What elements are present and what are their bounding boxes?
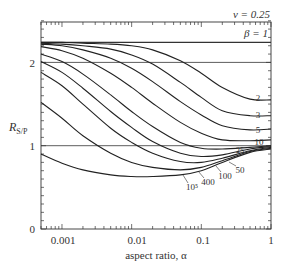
x-tick-0.001: 0.001	[51, 234, 76, 246]
curve-label-25: 25	[236, 146, 244, 155]
curve-label-50: 50	[236, 165, 246, 175]
x-tick-0.01: 0.01	[127, 234, 146, 246]
nu-annotation: ν = 0.25	[233, 8, 271, 20]
curve-label-2: 2	[256, 93, 261, 103]
beta-annotation: β = 1	[243, 27, 268, 39]
curve-25	[41, 54, 271, 149]
plot-frame	[41, 22, 271, 229]
curve-2	[41, 42, 271, 100]
y-tick-1: 1	[30, 140, 36, 152]
curve-5	[41, 44, 271, 130]
curve-10	[41, 47, 271, 141]
curve-label-400: 400	[201, 177, 215, 187]
chart: ν = 0.25 β = 1 RS/P 0 1 2 0.001 0.01 0.1…	[0, 0, 283, 263]
curve-label-3: 3	[256, 110, 261, 120]
curve-label-10: 10	[255, 137, 265, 147]
curve-label-100: 100	[218, 171, 232, 181]
x-axis-label: aspect ratio, α	[125, 249, 187, 261]
x-tick-0.1: 0.1	[196, 234, 210, 246]
curve-label-5: 5	[256, 125, 261, 135]
x-tick-1: 1	[268, 234, 274, 246]
y-axis-label: RS/P	[8, 120, 28, 136]
y-tick-2: 2	[30, 57, 36, 69]
curve-label-1e5: 10⁵	[186, 182, 198, 192]
curve-50	[41, 62, 271, 157]
curve-400	[41, 102, 271, 169]
y-tick-0: 0	[30, 223, 36, 235]
axis-ticks	[41, 21, 271, 229]
